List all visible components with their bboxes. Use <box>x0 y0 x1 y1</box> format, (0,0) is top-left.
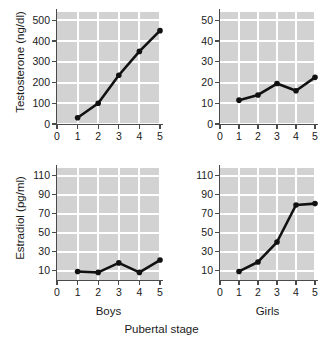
y-axis-tick <box>215 175 219 176</box>
x-axis-spine <box>56 280 163 281</box>
y-axis-tick <box>52 40 56 41</box>
x-axis-tick <box>98 281 99 285</box>
y-axis-tick <box>215 61 219 62</box>
y-axis-tick-label: 50 <box>15 227 50 238</box>
y-axis-tick-label: 300 <box>15 56 50 67</box>
x-axis-tick <box>118 281 119 285</box>
group-label-boys: Boys <box>47 305 170 317</box>
y-axis-tick <box>52 20 56 21</box>
x-axis-tick <box>238 125 239 129</box>
x-axis-title: Pubertal stage <box>0 323 323 335</box>
data-point-marker <box>293 202 299 208</box>
y-axis-tick-label: 200 <box>15 77 50 88</box>
x-axis-tick <box>257 125 258 129</box>
x-axis-tick <box>77 281 78 285</box>
y-axis-tick-label: 70 <box>178 208 213 219</box>
data-point-marker <box>236 269 242 275</box>
y-axis-tick-label: 500 <box>15 15 50 26</box>
y-axis-tick-label: 100 <box>15 98 50 109</box>
y-axis-tick-label: 110 <box>15 170 50 181</box>
y-axis-tick-label: 30 <box>178 246 213 257</box>
x-axis-spine <box>56 124 163 125</box>
y-axis-tick-label: 50 <box>178 15 213 26</box>
x-axis-tick <box>77 125 78 129</box>
x-axis-tick <box>238 281 239 285</box>
x-axis-tick <box>295 281 296 285</box>
y-axis-tick <box>52 103 56 104</box>
y-axis-tick <box>215 213 219 214</box>
y-axis-tick-label: 10 <box>178 265 213 276</box>
y-axis-tick-label: 0 <box>15 119 50 130</box>
x-axis-tick <box>314 125 315 129</box>
y-axis-tick <box>52 270 56 271</box>
y-axis-tick-label: 70 <box>15 208 50 219</box>
y-axis-tick-label: 30 <box>15 246 50 257</box>
y-axis-tick <box>215 251 219 252</box>
y-axis-tick <box>215 82 219 83</box>
y-axis-tick-label: 10 <box>178 98 213 109</box>
x-axis-spine <box>219 280 318 281</box>
data-point-marker <box>312 201 318 207</box>
y-axis-tick <box>52 82 56 83</box>
y-axis-tick <box>52 194 56 195</box>
x-axis-tick <box>56 281 57 285</box>
y-axis-tick-label: 90 <box>15 189 50 200</box>
y-axis-tick-label: 40 <box>178 36 213 47</box>
y-axis-tick <box>52 175 56 176</box>
y-axis-tick <box>52 213 56 214</box>
x-axis-tick <box>118 125 119 129</box>
x-axis-tick <box>276 125 277 129</box>
x-axis-tick-label: 5 <box>148 287 172 298</box>
x-axis-tick <box>276 281 277 285</box>
x-axis-tick <box>139 281 140 285</box>
y-axis-tick <box>52 232 56 233</box>
y-axis-tick <box>52 61 56 62</box>
y-axis-spine <box>56 9 57 124</box>
x-axis-tick <box>56 125 57 129</box>
x-axis-tick <box>314 281 315 285</box>
y-axis-spine <box>56 165 57 280</box>
y-axis-tick-label: 50 <box>178 227 213 238</box>
x-axis-tick-label: 5 <box>303 287 323 298</box>
x-axis-tick <box>98 125 99 129</box>
y-axis-spine <box>219 9 220 124</box>
y-axis-tick <box>215 40 219 41</box>
y-axis-tick-label: 20 <box>178 77 213 88</box>
y-axis-tick <box>52 251 56 252</box>
group-label-girls: Girls <box>210 305 323 317</box>
y-axis-tick <box>215 103 219 104</box>
data-point-marker <box>255 259 261 265</box>
x-axis-tick <box>219 281 220 285</box>
y-axis-tick-label: 400 <box>15 36 50 47</box>
x-axis-spine <box>219 124 318 125</box>
y-axis-tick <box>215 270 219 271</box>
y-axis-tick-label: 0 <box>178 119 213 130</box>
x-axis-tick <box>295 125 296 129</box>
y-axis-tick-label: 110 <box>178 170 213 181</box>
x-axis-tick <box>219 125 220 129</box>
data-point-marker <box>274 239 280 245</box>
x-axis-tick-label: 5 <box>303 131 323 142</box>
y-axis-tick <box>215 194 219 195</box>
x-axis-tick <box>159 281 160 285</box>
data-line <box>239 204 315 272</box>
y-axis-tick-label: 10 <box>15 265 50 276</box>
y-axis-tick-label: 30 <box>178 56 213 67</box>
y-axis-tick <box>215 232 219 233</box>
y-axis-tick-label: 90 <box>178 189 213 200</box>
x-axis-tick <box>257 281 258 285</box>
x-axis-tick <box>139 125 140 129</box>
y-axis-tick <box>215 20 219 21</box>
figure-root: Testosterone (ng/dl) Estradiol (pg/ml) B… <box>0 0 323 338</box>
x-axis-tick <box>159 125 160 129</box>
x-axis-tick-label: 5 <box>148 131 172 142</box>
y-axis-spine <box>219 165 220 280</box>
